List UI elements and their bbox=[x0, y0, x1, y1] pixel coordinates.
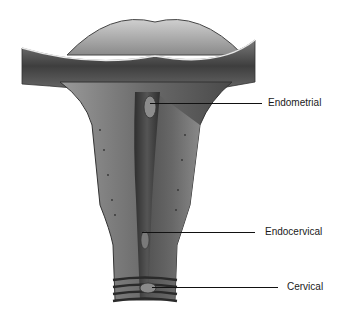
endocervical-leader-line bbox=[142, 232, 255, 233]
uterus-illustration bbox=[0, 0, 345, 328]
uterus-diagram: Endometrial Endocervical Cervical bbox=[0, 0, 345, 328]
cervical-label: Cervical bbox=[287, 281, 323, 293]
endometrial-leader-line bbox=[150, 103, 262, 104]
cervical-leader-line bbox=[152, 287, 278, 288]
endocervical-label: Endocervical bbox=[265, 226, 322, 238]
endometrial-label: Endometrial bbox=[268, 97, 321, 109]
